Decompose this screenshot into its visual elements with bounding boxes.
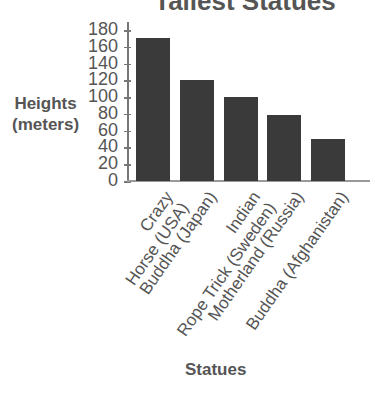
y-tick-label: 0 (78, 171, 118, 189)
y-tick-label: 80 (78, 104, 118, 122)
y-axis-title-line-2: (meters) (12, 114, 79, 135)
y-axis-title: Heights (meters) (12, 93, 79, 135)
y-tick-label: 180 (78, 20, 118, 38)
bar (311, 139, 345, 181)
y-tick-label: 120 (78, 70, 118, 88)
bar (267, 115, 301, 181)
bar (224, 97, 258, 181)
bar (136, 38, 170, 181)
y-tick-label: 20 (78, 154, 118, 172)
bar (180, 80, 214, 181)
y-tick-label: 140 (78, 54, 118, 72)
y-tick-label: 100 (78, 87, 118, 105)
y-tick-label: 40 (78, 137, 118, 155)
x-axis-title: Statues (185, 360, 246, 380)
chart-title: Tallest Statues (130, 0, 360, 17)
y-tick-label: 160 (78, 37, 118, 55)
y-tick-label: 60 (78, 121, 118, 139)
y-axis-title-line-1: Heights (12, 93, 79, 114)
y-axis-line (127, 22, 129, 181)
